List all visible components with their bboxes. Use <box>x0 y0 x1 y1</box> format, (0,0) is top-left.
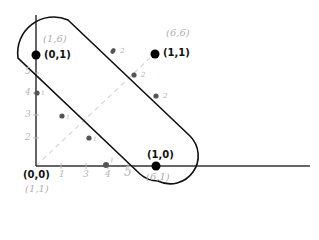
point-1-0-alt-label: (6,1) <box>146 172 170 182</box>
point-1-0-label: (1,0) <box>147 150 174 160</box>
small-point-label: 1 <box>110 157 114 163</box>
origin-label: (0,0) <box>23 170 50 180</box>
point-0-1-label: (0,1) <box>44 50 71 60</box>
x-tick-label: 1 <box>59 170 65 179</box>
small-point-label: 2 <box>141 72 145 79</box>
y-tick-label: 5 <box>25 67 31 76</box>
point-0-1 <box>32 51 41 60</box>
y-tick-label: 4 <box>25 88 31 97</box>
point-0-1-alt-label: (1,6) <box>43 34 67 44</box>
origin-alt-label: (1,1) <box>25 184 49 194</box>
small-point-label: 1 <box>66 114 70 120</box>
small-point-label: 1 <box>93 136 97 142</box>
small-point-label: 2 <box>163 93 167 100</box>
point-1-0 <box>152 162 161 171</box>
y-tick-label: 2 <box>25 133 31 142</box>
point-1-1-label: (1,1) <box>163 48 190 58</box>
small-point-label: 2 <box>120 48 124 55</box>
y-tick-label: 3 <box>25 110 31 119</box>
point-1-1 <box>151 50 160 59</box>
x-tick-label: 3 <box>83 170 89 179</box>
x-tick-label: 5 <box>124 166 132 178</box>
point-1-1-alt-label: (6,6) <box>166 28 190 38</box>
x-tick-label: 4 <box>105 170 111 179</box>
small-points <box>34 47 158 168</box>
small-point-label: 1 <box>41 90 45 96</box>
